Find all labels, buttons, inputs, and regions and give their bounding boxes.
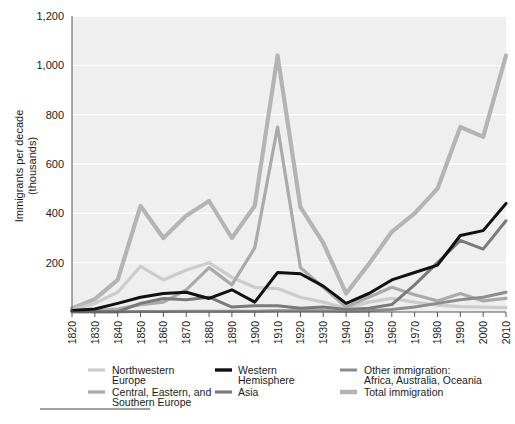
- x-tick-label: 1950: [363, 321, 375, 345]
- y-axis-title-line1: Immigrants per decade: [13, 110, 25, 223]
- x-tick-label: 1850: [135, 321, 147, 345]
- x-tick-label: 1920: [294, 321, 306, 345]
- x-tick-label: 1870: [180, 321, 192, 345]
- y-tick-label: 600: [46, 158, 64, 170]
- y-axis-title-line2: (thousands): [26, 137, 38, 195]
- x-tick-label: 1960: [386, 321, 398, 345]
- legend-label: Total immigration: [364, 386, 444, 398]
- y-tick-label: 800: [46, 109, 64, 121]
- y-tick-label: 200: [46, 257, 64, 269]
- x-tick-label: 2010: [500, 321, 512, 345]
- legend-label-cont: Hemisphere: [238, 374, 295, 386]
- x-tick-label: 1830: [89, 321, 101, 345]
- legend-label-cont: Africa, Australia, Oceania: [364, 374, 482, 386]
- legend-label: Asia: [238, 386, 259, 398]
- x-tick-label: 1930: [317, 321, 329, 345]
- x-tick-label: 1840: [112, 321, 124, 345]
- legend-label-cont: Southern Europe: [112, 396, 192, 408]
- x-tick-label: 1940: [340, 321, 352, 345]
- x-tick-label: 1990: [454, 321, 466, 345]
- x-tick-label: 1890: [226, 321, 238, 345]
- x-tick-label: 1910: [272, 321, 284, 345]
- x-tick-label: 1820: [66, 321, 78, 345]
- x-tick-label: 1980: [431, 321, 443, 345]
- y-tick-label: 1,200: [36, 10, 64, 22]
- y-tick-label: 1,000: [36, 59, 64, 71]
- x-tick-label: 1900: [249, 321, 261, 345]
- x-tick-label: 1860: [157, 321, 169, 345]
- x-tick-label: 1970: [409, 321, 421, 345]
- chart-canvas: 1,2001,000800600400200 18201830184018501…: [0, 0, 515, 424]
- x-tick-label: 2000: [477, 321, 489, 345]
- immigration-line-chart-figure: 1,2001,000800600400200 18201830184018501…: [0, 0, 515, 424]
- y-tick-label: 400: [46, 207, 64, 219]
- x-tick-label: 1880: [203, 321, 215, 345]
- legend-label-cont: Europe: [112, 374, 146, 386]
